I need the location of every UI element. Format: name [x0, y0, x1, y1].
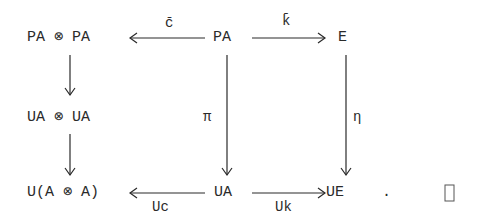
node-e: E	[338, 30, 347, 45]
period: .	[382, 185, 391, 200]
qed-box-icon	[445, 185, 454, 201]
node-u-a-tensor-a: U(A ⊗ A)	[27, 185, 99, 200]
node-ua-tensor-ua: UA ⊗ UA	[27, 110, 90, 125]
commutative-diagram: PA ⊗ PA PA E UA ⊗ UA U(A ⊗ A) UA UE c̄ k…	[0, 0, 479, 224]
node-ua: UA	[214, 185, 232, 200]
label-pi: π	[203, 110, 211, 124]
label-k-bar: k̄	[282, 14, 290, 28]
node-pa: PA	[213, 30, 231, 45]
label-uk: Uk	[275, 200, 292, 214]
label-c-bar: c̄	[165, 16, 173, 30]
label-uc: Uc	[152, 200, 169, 214]
node-ue: UE	[326, 185, 344, 200]
label-eta: η	[353, 110, 361, 124]
node-pa-tensor-pa: PA ⊗ PA	[27, 30, 90, 45]
